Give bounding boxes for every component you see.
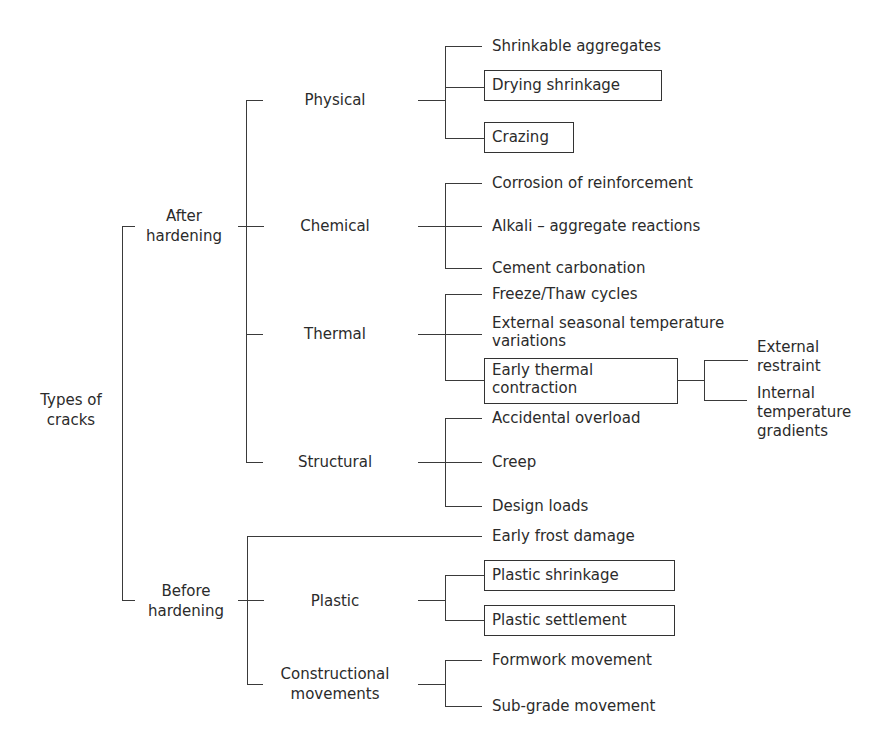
chemical-stub [418, 226, 445, 227]
category-plastic: Plastic [275, 591, 395, 611]
item-crazing: Crazing [492, 127, 549, 147]
before-hardening-line2: hardening [140, 601, 232, 621]
before-to-early-frost [247, 536, 482, 537]
early-thermal-line1: Early thermal [492, 360, 672, 380]
item-sub-grade-movement: Sub-grade movement [492, 696, 655, 716]
plastic-vertical [445, 575, 446, 621]
root-label: Types of cracks [30, 390, 112, 430]
physical-branch-1 [445, 46, 482, 47]
item-creep: Creep [492, 452, 536, 472]
item-formwork-movement: Formwork movement [492, 650, 652, 670]
root-connector-bottom [122, 600, 135, 601]
root-label-line1: Types of [30, 390, 112, 410]
external-seasonal-line1: External seasonal temperature [492, 313, 792, 333]
constructional-line1: Constructional [262, 664, 408, 684]
item-design-loads: Design loads [492, 496, 588, 516]
structural-branch-2 [445, 462, 482, 463]
after-to-structural [246, 462, 263, 463]
thermal-vertical [445, 294, 446, 380]
structural-branch-1 [445, 418, 482, 419]
plastic-branch-1 [445, 575, 485, 576]
external-restraint-line1: External [757, 337, 877, 357]
early-thermal-line2: contraction [492, 378, 672, 398]
category-structural: Structural [275, 452, 395, 472]
thermal-branch-2 [445, 334, 482, 335]
physical-stub [418, 100, 445, 101]
constructional-branch-2 [445, 706, 482, 707]
item-accidental-overload: Accidental overload [492, 408, 640, 428]
chemical-branch-3 [445, 268, 482, 269]
early-thermal-vertical [704, 360, 705, 401]
item-early-frost-damage: Early frost damage [492, 526, 635, 546]
item-plastic-settlement: Plastic settlement [492, 610, 627, 630]
after-to-thermal [246, 334, 263, 335]
early-thermal-branch-2 [704, 400, 747, 401]
category-constructional-movements: Constructional movements [262, 664, 408, 704]
item-alkali-aggregate: Alkali – aggregate reactions [492, 216, 700, 236]
external-seasonal-line2: variations [492, 331, 792, 351]
before-hardening-vertical [247, 536, 248, 684]
early-thermal-branch-1 [704, 360, 748, 361]
chemical-branch-1 [445, 183, 482, 184]
after-hardening-line1: After [138, 206, 230, 226]
plastic-branch-2 [445, 620, 485, 621]
physical-branch-2 [445, 87, 485, 88]
subitem-internal-temperature-gradients: Internal temperature gradients [757, 383, 887, 441]
root-label-line2: cracks [30, 410, 112, 430]
constructional-stub [418, 684, 445, 685]
root-connector-vertical [122, 226, 123, 600]
item-early-thermal: Early thermal contraction [492, 360, 672, 398]
root-connector-top [122, 226, 135, 227]
chemical-branch-2 [445, 226, 482, 227]
item-external-seasonal: External seasonal temperature variations [492, 313, 792, 351]
thermal-branch-1 [445, 294, 482, 295]
internal-gradients-line3: gradients [757, 421, 887, 441]
subitem-external-restraint: External restraint [757, 337, 877, 376]
internal-gradients-line2: temperature [757, 402, 887, 422]
category-physical: Physical [275, 90, 395, 110]
crack-types-tree-diagram: Types of cracks After hardening Physical… [0, 0, 892, 751]
plastic-stub [418, 600, 445, 601]
before-to-constructional [247, 684, 263, 685]
item-plastic-shrinkage: Plastic shrinkage [492, 565, 619, 585]
after-hardening-vertical [246, 100, 247, 462]
thermal-stub [418, 334, 445, 335]
item-cement-carbonation: Cement carbonation [492, 258, 645, 278]
before-hardening-line1: Before [140, 581, 232, 601]
internal-gradients-line1: Internal [757, 383, 887, 403]
category-thermal: Thermal [275, 324, 395, 344]
item-freeze-thaw: Freeze/Thaw cycles [492, 284, 637, 304]
early-thermal-stub [677, 380, 704, 381]
physical-branch-3 [445, 138, 485, 139]
before-hardening-stub [238, 600, 264, 601]
after-hardening-label: After hardening [138, 206, 230, 246]
item-corrosion: Corrosion of reinforcement [492, 173, 693, 193]
before-hardening-label: Before hardening [140, 581, 232, 621]
item-shrinkable-aggregates: Shrinkable aggregates [492, 36, 661, 56]
after-hardening-line2: hardening [138, 226, 230, 246]
after-to-physical [246, 100, 263, 101]
external-restraint-line2: restraint [757, 356, 877, 376]
category-chemical: Chemical [275, 216, 395, 236]
physical-vertical [445, 46, 446, 139]
constructional-branch-1 [445, 660, 482, 661]
thermal-branch-3 [445, 380, 485, 381]
item-drying-shrinkage: Drying shrinkage [492, 75, 620, 95]
structural-branch-3 [445, 506, 482, 507]
after-hardening-stub [238, 226, 264, 227]
constructional-vertical [445, 660, 446, 707]
structural-stub [418, 462, 445, 463]
constructional-line2: movements [262, 684, 408, 704]
